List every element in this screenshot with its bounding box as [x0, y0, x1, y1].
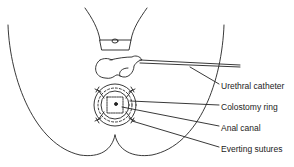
trunk-right [131, 8, 147, 40]
label-anal-canal: Anal canal [221, 123, 261, 133]
label-everting-sutures: Everting sutures [221, 144, 282, 154]
catheter-line [140, 60, 240, 65]
left-buttock-outline [8, 25, 115, 156]
trunk-left [85, 8, 100, 40]
pubic-block [100, 40, 131, 50]
label-urethral-catheter: Urethral catheter [221, 81, 284, 91]
label-colostomy-ring: Colostomy ring [221, 102, 278, 112]
